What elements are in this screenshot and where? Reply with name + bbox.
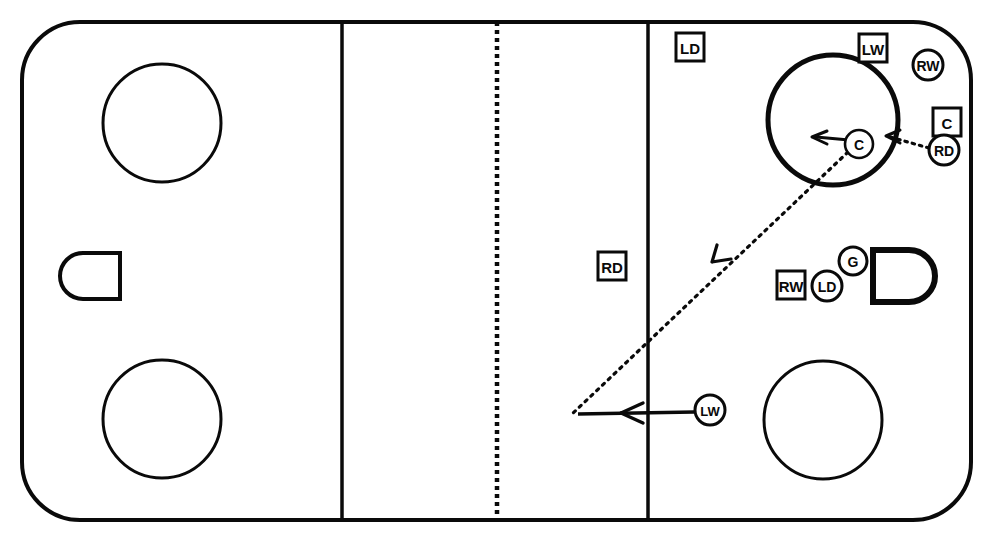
hockey-rink-svg: LD LW RW C RD C RD [0, 0, 993, 542]
marker-label: LD [818, 279, 837, 295]
marker-label: C [942, 115, 953, 132]
rink-diagram-canvas: LD LW RW C RD C RD [0, 0, 993, 542]
marker-rw-low-slot[interactable]: RW [777, 271, 805, 299]
marker-label: LW [862, 41, 885, 58]
marker-rd-neutral-zone[interactable]: RD [598, 252, 626, 280]
marker-label: RD [934, 143, 954, 159]
marker-ld-low-slot[interactable]: LD [812, 271, 842, 301]
marker-g-crease[interactable]: G [839, 247, 867, 275]
marker-label: C [854, 137, 864, 153]
marker-label: RW [916, 58, 940, 74]
marker-ld-top-left-zone[interactable]: LD [676, 33, 704, 61]
marker-rd-right-edge[interactable]: RD [929, 135, 959, 165]
marker-label: G [848, 254, 859, 270]
marker-c-in-circle[interactable]: C [845, 130, 873, 158]
marker-lw-bottom[interactable]: LW [695, 395, 725, 425]
marker-label: RW [779, 278, 805, 295]
marker-c-right-edge[interactable]: C [933, 108, 961, 136]
marker-lw-top[interactable]: LW [859, 34, 887, 62]
marker-label: LD [680, 40, 700, 57]
marker-label: RD [601, 259, 623, 276]
marker-rw-top-corner[interactable]: RW [913, 50, 943, 80]
skate-path-lw [578, 412, 694, 414]
marker-label: LW [700, 404, 720, 419]
